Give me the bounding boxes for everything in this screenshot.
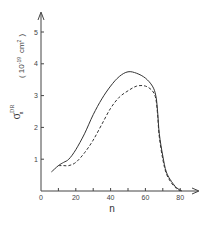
y-tick-label: 4: [34, 60, 38, 67]
y-sup: DR: [9, 105, 15, 113]
y-axis-label: σDRn: [9, 105, 24, 120]
y-tick-label: 3: [34, 92, 38, 99]
data-curves: [51, 72, 182, 191]
x-axis-label: n: [109, 203, 115, 214]
y-tick-label: 1: [34, 156, 38, 163]
svg-text:σDRn: σDRn: [9, 105, 24, 120]
ticks: 02040608012345: [34, 29, 184, 202]
svg-text:( 10-19cm2): ( 10-19cm2): [16, 34, 26, 78]
y-tick-label: 5: [34, 29, 38, 36]
solid-curve: [51, 72, 182, 191]
dashed-curve: [58, 86, 180, 192]
y-tick-label: 2: [34, 124, 38, 131]
x-tick-label: 40: [107, 194, 115, 201]
chart-canvas: 02040608012345 n σDRn ( 10-19cm2): [0, 0, 221, 226]
x-tick-label: 60: [142, 194, 150, 201]
axes: [38, 12, 199, 194]
x-tick-label: 80: [176, 194, 184, 201]
y-units-label: ( 10-19cm2): [16, 34, 26, 78]
y-sub: n: [18, 112, 24, 115]
x-tick-label: 0: [39, 194, 43, 201]
x-tick-label: 20: [72, 194, 80, 201]
